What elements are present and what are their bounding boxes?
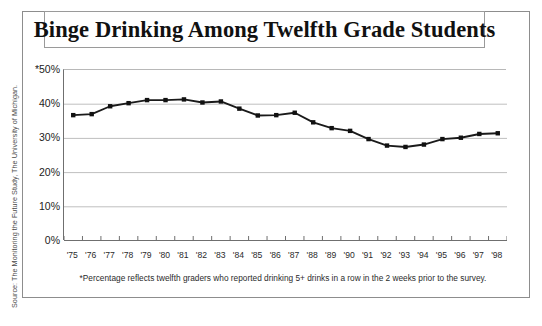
data-point (329, 126, 333, 130)
y-axis-labels: 0%10%20%30%40%*50% (12, 69, 60, 240)
data-point (477, 132, 481, 136)
data-point (126, 101, 130, 105)
data-point (163, 98, 167, 102)
data-point (366, 137, 370, 141)
data-point (348, 129, 352, 133)
line-chart-svg (64, 70, 507, 241)
data-point (256, 113, 260, 117)
data-point (108, 104, 112, 108)
page-title: Binge Drinking Among Twelfth Grade Stude… (34, 17, 496, 43)
y-axis-tick-label: 20% (16, 167, 60, 177)
y-axis-tick-label: 40% (16, 98, 60, 108)
x-axis-tick-label: '98 (484, 249, 510, 261)
y-axis-tick-label: 0% (16, 235, 60, 245)
data-point (311, 120, 315, 124)
data-line (73, 99, 498, 147)
plot-area (63, 69, 506, 240)
chart-footnote: *Percentage reflects twelfth graders who… (63, 273, 503, 284)
y-axis-tick-label: 10% (16, 201, 60, 211)
data-point (182, 97, 186, 101)
y-axis-tick-label: *50% (16, 64, 60, 74)
data-point (200, 100, 204, 104)
data-point (237, 106, 241, 110)
data-point (422, 142, 426, 146)
data-point (459, 136, 463, 140)
data-point (219, 99, 223, 103)
data-point (274, 113, 278, 117)
data-point (496, 131, 500, 135)
data-point (403, 145, 407, 149)
y-axis-tick-label: 30% (16, 132, 60, 142)
data-point (145, 98, 149, 102)
data-point (440, 137, 444, 141)
x-axis-labels: '75'76'77'78'79'80'81'82'83'84'85'86'87'… (63, 249, 506, 263)
data-point (293, 111, 297, 115)
chart-title-box: Binge Drinking Among Twelfth Grade Stude… (44, 11, 485, 48)
data-point (385, 143, 389, 147)
data-point (71, 113, 75, 117)
data-point (89, 112, 93, 116)
chart-figure: Source: The Monitoring the Future Study,… (0, 0, 542, 326)
